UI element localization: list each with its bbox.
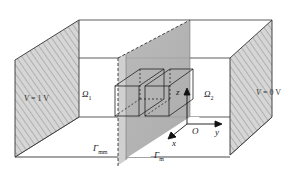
left-voltage-label: V = 1 V <box>24 95 49 103</box>
axis-y-label: y <box>215 128 219 137</box>
axis-x-label: x <box>172 139 176 148</box>
gamma-mm-label: Γmm <box>93 144 107 155</box>
omega-subscript: 1 <box>89 95 92 101</box>
gamma-subscript: mm <box>98 149 107 155</box>
voltage-value: = 1 V <box>29 94 49 103</box>
left-electrode <box>15 20 79 157</box>
membrane-cell-diagram: V = 1 V V = 0 V Ω1 Ω2 Γmm Γm z O y x <box>0 0 306 177</box>
omega1-label: Ω1 <box>82 90 92 101</box>
omega2-label: Ω2 <box>204 90 214 101</box>
axis-origin-label: O <box>192 127 199 136</box>
gamma-m-label: Γm <box>154 151 164 162</box>
right-voltage-label: V = 0 V <box>256 89 281 97</box>
axis-z-label: z <box>176 88 180 97</box>
gamma-subscript: m <box>159 156 164 162</box>
omega-subscript: 2 <box>211 95 214 101</box>
voltage-value: = 0 V <box>261 88 281 97</box>
